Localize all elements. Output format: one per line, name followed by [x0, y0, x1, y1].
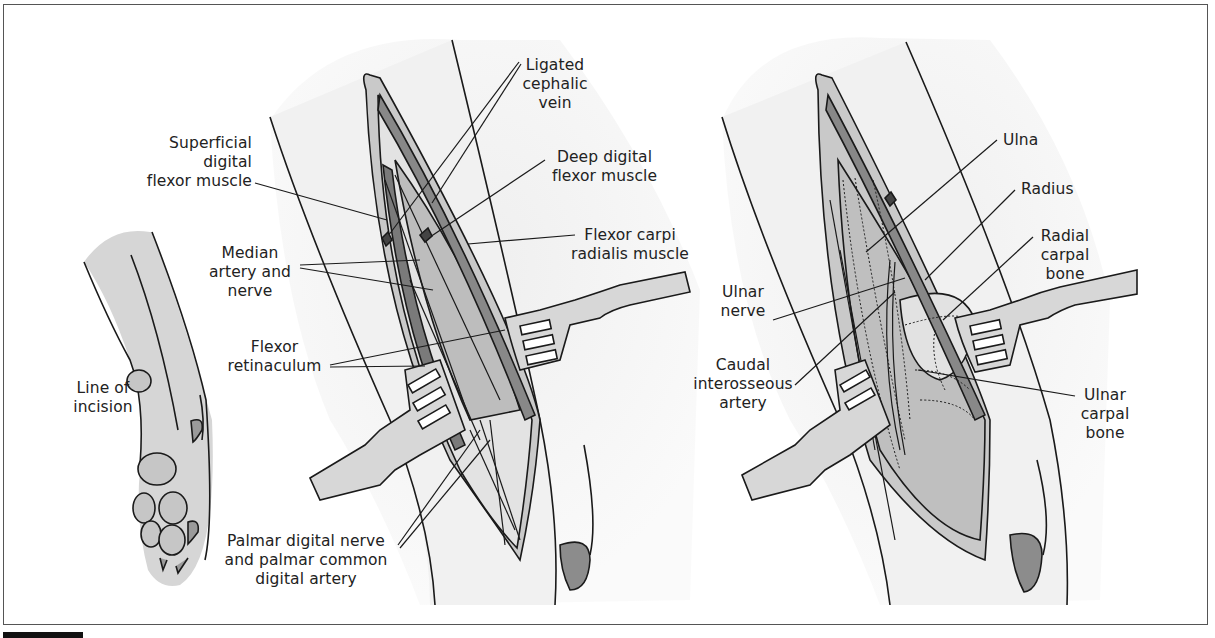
label-radius: Radius	[1021, 180, 1091, 199]
label-caudal-interosseous-artery: Caudal interosseous artery	[693, 356, 793, 413]
label-ulnar-nerve: Ulnar nerve	[713, 283, 773, 321]
label-ulnar-carpal-bone: Ulnar carpal bone	[1075, 386, 1135, 443]
label-radial-carpal-bone: Radial carpal bone	[1035, 227, 1095, 284]
anatomy-illustration	[0, 0, 1215, 638]
label-median-artery-nerve: Median artery and nerve	[205, 244, 295, 301]
label-deep-digital-flexor: Deep digital flexor muscle	[547, 148, 662, 186]
label-palmar-digital: Palmar digital nerve and palmar common d…	[220, 532, 392, 589]
deep-panel	[722, 37, 1137, 605]
label-ligated-cephalic-vein: Ligated cephalic vein	[520, 56, 590, 113]
label-flexor-carpi-radialis: Flexor carpi radialis muscle	[567, 226, 693, 264]
label-ulna: Ulna	[1003, 131, 1063, 150]
label-superficial-digital-flexor: Superficial digital flexor muscle	[140, 134, 252, 191]
label-line-of-incision: Line of incision	[58, 379, 148, 417]
superficial-panel	[255, 39, 700, 605]
label-flexor-retinaculum: Flexor retinaculum	[222, 338, 327, 376]
